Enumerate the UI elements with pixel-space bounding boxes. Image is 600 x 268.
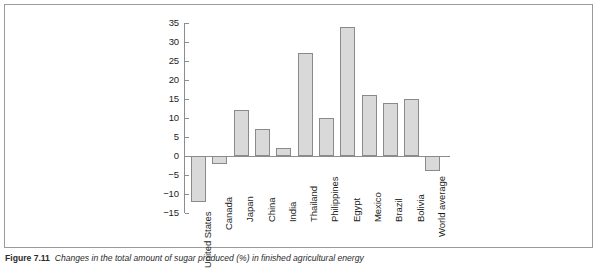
y-tick-label: 10: [153, 113, 179, 123]
y-tick-mark: [185, 61, 189, 62]
bar: [276, 148, 291, 156]
y-tick-label: −15: [153, 208, 179, 218]
y-tick-mark: [185, 42, 189, 43]
x-axis-label: India: [288, 202, 298, 222]
x-axis-label: Brazil: [394, 199, 404, 222]
x-axis-label: Philippines: [330, 177, 340, 222]
y-tick-label: 5: [153, 132, 179, 142]
bar: [340, 27, 355, 156]
y-tick-label: −5: [153, 170, 179, 180]
bar: [212, 156, 227, 164]
y-tick-label: −10: [153, 189, 179, 199]
x-axis-label: Canada: [224, 197, 234, 230]
y-tick-label: 25: [153, 56, 179, 66]
y-tick-mark: [185, 175, 189, 176]
bar: [191, 156, 206, 202]
bar: [383, 103, 398, 156]
y-tick-mark: [185, 156, 189, 157]
bar: [255, 129, 270, 156]
bar: [234, 110, 249, 156]
caption-label: Figure 7.11: [5, 253, 50, 263]
y-tick-label: 15: [153, 94, 179, 104]
y-tick-mark: [185, 23, 189, 24]
x-axis-label: Egypt: [352, 198, 362, 222]
y-tick-label: 30: [153, 37, 179, 47]
x-axis-label: Bolivia: [416, 194, 426, 222]
x-axis-label: Japan: [245, 196, 255, 222]
y-tick-mark: [185, 137, 189, 138]
bar: [319, 118, 334, 156]
caption-text: Changes in the total amount of sugar pro…: [55, 253, 364, 263]
y-tick-mark: [185, 213, 189, 214]
bar: [404, 99, 419, 156]
x-axis-label: World average: [437, 176, 447, 237]
figure-caption: Figure 7.11 Changes in the total amount …: [5, 253, 595, 264]
y-tick-mark: [185, 99, 189, 100]
y-tick-label: 35: [153, 18, 179, 28]
bar: [298, 53, 313, 156]
y-tick-label: 0: [153, 151, 179, 161]
x-axis-label: Thailand: [309, 186, 319, 222]
x-axis-label: China: [267, 197, 277, 222]
y-tick-mark: [185, 194, 189, 195]
plot-area: 35302520151050−5−10−15 United StatesCana…: [5, 5, 594, 249]
y-tick-mark: [185, 118, 189, 119]
bar: [362, 95, 377, 156]
chart-frame: 35302520151050−5−10−15 United StatesCana…: [4, 4, 593, 248]
y-tick-label: 20: [153, 75, 179, 85]
y-tick-mark: [185, 80, 189, 81]
bar: [425, 156, 440, 171]
x-axis-label: Mexico: [373, 192, 383, 222]
